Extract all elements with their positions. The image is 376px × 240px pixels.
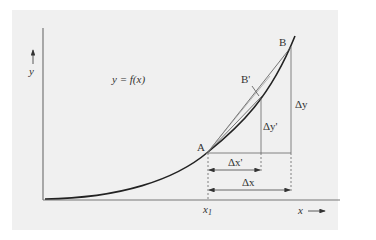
x-axis-label: x	[297, 204, 303, 216]
function-curve	[45, 36, 295, 199]
point-b-label: B	[279, 36, 286, 48]
secant-ab-prime	[208, 96, 262, 152]
derivative-diagram: y y = f(x) A B B' Δy Δy' Δx' Δx x1 x	[0, 0, 376, 240]
tangent-hint	[206, 76, 270, 154]
dx-prime-label: Δx'	[228, 156, 243, 168]
dx-label: Δx	[242, 176, 255, 188]
dy-label: Δy	[295, 98, 308, 110]
x1-label: x1	[202, 203, 212, 217]
point-b-prime-label: B'	[241, 73, 250, 85]
curve-label: y = f(x)	[111, 73, 145, 86]
dy-prime-label: Δy'	[263, 120, 278, 132]
point-a-label: A	[197, 141, 205, 153]
y-axis-label: y	[28, 65, 34, 77]
